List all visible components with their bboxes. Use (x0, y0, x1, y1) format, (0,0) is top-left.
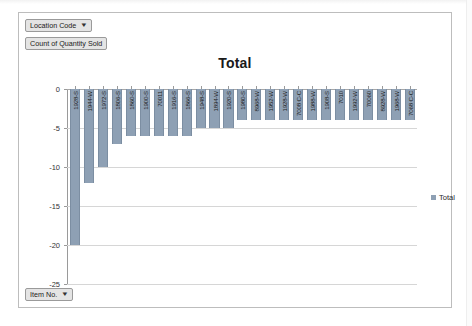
x-axis-category-label: 1968-W (392, 91, 399, 111)
bar-column[interactable]: 8928-W (375, 89, 389, 284)
x-axis-tick-mark (117, 86, 118, 89)
bar-column[interactable]: 1916-S (166, 89, 180, 284)
x-axis-category-label: 1900-S (141, 91, 148, 110)
bar-column[interactable]: 1900-S (138, 89, 152, 284)
chart-legend: Total (431, 193, 455, 202)
bar-column[interactable]: 7068 C-C (403, 89, 417, 284)
bar-series-total: 1928-S1944-W1972-S1806-S1860-S1900-S7001… (68, 89, 417, 284)
bar-column[interactable]: 1894-W (208, 89, 222, 284)
x-axis-category-label: 1952-W (267, 91, 274, 111)
x-axis-category-label: 8928-W (378, 91, 385, 111)
bar-column[interactable]: 1944-W (82, 89, 96, 284)
bar-column[interactable]: 1972-S (96, 89, 110, 284)
x-axis-category-label: 7008 C-C (295, 91, 302, 116)
bar-column[interactable]: 1920-S (221, 89, 235, 284)
y-axis-tick-label: -20 (49, 241, 60, 250)
x-axis-category-label: 1988-W (309, 91, 316, 111)
x-axis-category-label: 1908-S (323, 91, 330, 110)
x-axis-category-label: 7068 C-C (406, 91, 413, 116)
x-axis-tick-mark (215, 86, 216, 89)
x-axis-category-label: 1806-S (113, 91, 120, 110)
bar-column[interactable]: 1908-S (319, 89, 333, 284)
x-axis-category-label: 1894-W (211, 91, 218, 111)
chart-title: Total (19, 55, 451, 71)
x-axis-tick-mark (340, 86, 341, 89)
x-axis-tick-mark (354, 86, 355, 89)
bar-column[interactable]: 1968-W (389, 89, 403, 284)
x-axis-tick-mark (75, 86, 76, 89)
y-axis-tick-label: 0 (56, 85, 60, 94)
x-axis-tick-mark (173, 86, 174, 89)
bar-column[interactable]: 1928-S (68, 89, 82, 284)
bar-column[interactable]: 8968-W (249, 89, 263, 284)
legend-label-total: Total (439, 193, 455, 202)
y-axis-tick-label: -10 (49, 163, 60, 172)
x-axis-category-label: 70060 (364, 91, 371, 107)
x-axis-tick-mark (312, 86, 313, 89)
y-axis-tick-mark (64, 245, 67, 246)
bar-column[interactable]: 1928-W (277, 89, 291, 284)
bar-column[interactable]: 1806-S (110, 89, 124, 284)
x-axis-tick-mark (228, 86, 229, 89)
x-axis-tick-mark (284, 86, 285, 89)
bar-column[interactable]: 1866-S (180, 89, 194, 284)
x-axis-tick-mark (89, 86, 90, 89)
x-axis-tick-mark (368, 86, 369, 89)
pivot-axis-field-item-no[interactable]: Item No. ▼ (25, 288, 73, 301)
x-axis-tick-mark (382, 86, 383, 89)
pivot-value-field-count-of-quantity-sold[interactable]: Count of Quantity Sold (25, 37, 107, 50)
x-axis-tick-mark (159, 86, 160, 89)
x-axis-tick-mark (145, 86, 146, 89)
x-axis-category-label: 1920-S (225, 91, 232, 110)
bar-column[interactable]: 1980-S (235, 89, 249, 284)
x-axis-category-label: 1948-S (197, 91, 204, 110)
x-axis-category-label: 1928-S (71, 91, 78, 110)
bar[interactable] (70, 89, 80, 245)
x-axis-tick-mark (103, 86, 104, 89)
bar-column[interactable]: 1952-W (263, 89, 277, 284)
scan-artifact-right (466, 0, 472, 326)
bar-column[interactable]: 1992-W (347, 89, 361, 284)
x-axis-tick-mark (201, 86, 202, 89)
chevron-down-icon: ▼ (80, 20, 88, 31)
pivot-axis-field-label: Item No. (30, 289, 57, 300)
pivot-value-field-label: Count of Quantity Sold (30, 38, 102, 49)
plot-area: 0-5-10-15-20-25 1928-S1944-W1972-S1806-S… (67, 89, 417, 284)
x-axis-tick-mark (298, 86, 299, 89)
bar-column[interactable]: 70011 (152, 89, 166, 284)
pivot-filter-location-code-label: Location Code (30, 20, 76, 31)
y-axis-tick-label: -25 (49, 280, 60, 289)
x-axis-tick-mark (242, 86, 243, 89)
x-axis-category-label: 1944-W (85, 91, 92, 111)
x-axis-tick-mark (187, 86, 188, 89)
y-axis-tick-mark (64, 284, 67, 285)
x-axis-category-label: 1992-W (351, 91, 358, 111)
x-axis-tick-mark (410, 86, 411, 89)
bar-column[interactable]: 1988-W (305, 89, 319, 284)
y-axis-tick-label: -15 (49, 202, 60, 211)
y-axis-tick-mark (64, 167, 67, 168)
x-axis-category-label: 1860-S (127, 91, 134, 110)
x-axis-tick-mark (326, 86, 327, 89)
x-axis-category-label: 8968-W (253, 91, 260, 111)
x-axis-category-label: 1928-W (281, 91, 288, 111)
y-axis-tick-mark (64, 128, 67, 129)
x-axis-category-label: 1972-S (99, 91, 106, 110)
x-axis-tick-mark (131, 86, 132, 89)
legend-swatch-total (431, 195, 436, 200)
chevron-down-icon: ▼ (61, 289, 69, 300)
x-axis-tick-mark (256, 86, 257, 89)
bar-column[interactable]: 1860-S (124, 89, 138, 284)
bar-column[interactable]: 7008 C-C (291, 89, 305, 284)
pivot-filter-location-code[interactable]: Location Code ▼ (25, 19, 92, 32)
x-axis-category-label: 1916-S (169, 91, 176, 110)
bar-column[interactable]: 7010 (333, 89, 347, 284)
bar-column[interactable]: 70060 (361, 89, 375, 284)
x-axis-tick-mark (270, 86, 271, 89)
x-axis-category-label: 1980-S (239, 91, 246, 110)
x-axis-category-label: 70011 (155, 91, 162, 107)
x-axis-tick-mark (396, 86, 397, 89)
bar-column[interactable]: 1948-S (194, 89, 208, 284)
x-axis-category-label: 1866-S (183, 91, 190, 110)
y-axis-tick-mark (64, 89, 67, 90)
